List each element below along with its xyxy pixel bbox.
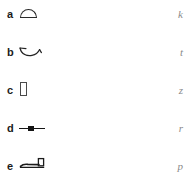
glyph-cell-e: [19, 154, 75, 188]
side-letter-d: r: [179, 122, 183, 134]
glyph-cell-c: [19, 78, 75, 112]
figure-row: e p: [0, 152, 188, 190]
bar-with-node-glyph: [19, 125, 45, 132]
line-with-box-glyph: [19, 157, 51, 174]
bowl-hook-glyph: [19, 46, 43, 57]
glyph-cell-a: [19, 2, 75, 36]
panel-label-a: a: [7, 8, 13, 20]
bar-node: [28, 126, 34, 131]
figure-row: c z: [0, 76, 188, 114]
figure-row: a k: [0, 0, 188, 38]
figure-row: d r: [0, 114, 188, 152]
panel-label-c: c: [7, 84, 13, 96]
figure-row: b t: [0, 38, 188, 76]
side-letter-e: p: [178, 160, 184, 172]
glyph-cell-b: [19, 40, 75, 74]
side-letter-a: k: [178, 8, 183, 20]
side-letter-b: t: [180, 46, 183, 58]
glyph-cell-d: [19, 116, 75, 150]
figure-panel: a k b t c z d: [0, 0, 188, 192]
panel-label-b: b: [7, 46, 14, 58]
side-letter-c: z: [179, 84, 183, 96]
dome-outline-glyph: [20, 9, 37, 18]
upright-rectangle-glyph: [20, 82, 27, 96]
panel-label-d: d: [7, 122, 14, 134]
panel-label-e: e: [7, 160, 13, 172]
